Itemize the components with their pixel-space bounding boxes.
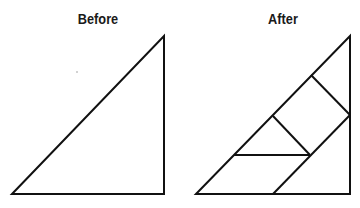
speck (76, 71, 78, 73)
after-outer-triangle (196, 36, 350, 194)
cut-line-2 (273, 116, 310, 155)
diagram-canvas (0, 0, 360, 208)
before-triangle (12, 36, 164, 194)
cut-line-1 (311, 75, 350, 115)
after-dissected-triangle (196, 36, 350, 194)
